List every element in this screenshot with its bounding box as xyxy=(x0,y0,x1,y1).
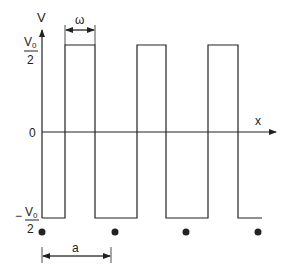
high-level-numerator: V0 xyxy=(24,35,37,50)
period-dimension: a xyxy=(42,241,111,263)
x-axis-label: x xyxy=(255,114,261,128)
low-level-numerator: V0 xyxy=(25,205,38,220)
lattice-point xyxy=(39,229,46,236)
square-wave-diagram: V x 0 V0 2 − V0 2 ω a xyxy=(0,0,285,278)
low-level-denominator: 2 xyxy=(27,222,34,236)
pulse-width-dimension: ω xyxy=(65,13,95,45)
high-level-denominator: 2 xyxy=(27,53,34,67)
lattice-point xyxy=(255,229,262,236)
lattice-points xyxy=(39,229,262,236)
origin-label: 0 xyxy=(29,126,36,140)
x-axis: x 0 xyxy=(29,114,276,140)
period-label: a xyxy=(72,241,79,255)
low-level-sign: − xyxy=(15,209,22,223)
y-axis: V xyxy=(37,10,46,218)
lattice-point xyxy=(112,229,119,236)
y-axis-label: V xyxy=(37,10,46,25)
lattice-point xyxy=(183,229,190,236)
pulse-width-label: ω xyxy=(75,13,84,27)
low-level-label: − V0 2 xyxy=(15,205,39,236)
high-level-label: V0 2 xyxy=(24,35,38,67)
